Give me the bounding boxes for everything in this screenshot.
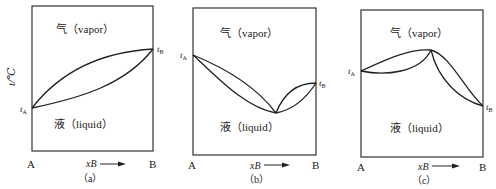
panel-b-x-axis-label: xB [249, 160, 261, 171]
panel-b-caption: （b） [244, 174, 269, 185]
panel-b-vapor-label: 气（vapor） [220, 26, 278, 39]
panel-b-dew-curve-right [276, 83, 316, 113]
panel-b-ta-label: tA [180, 50, 188, 61]
panel-c-left-end-label: A [357, 161, 365, 173]
panel-c: 气（vapor） 液（liquid） tA tB A B xB （c） [348, 10, 493, 186]
phase-diagrams: t/℃ 气（vapor） 液（liquid） tA tB A B xB （a） … [0, 0, 496, 189]
panel-a-x-axis-label: xB [85, 158, 97, 169]
panel-c-tb-label: tB [486, 102, 493, 113]
panel-b-right-end-label: B [312, 159, 319, 171]
panel-b-bubble-curve-left [193, 55, 276, 113]
panel-b: 气（vapor） 液（liquid） tA tB A B xB （b） [180, 8, 326, 185]
panel-c-bubble-curve-left [361, 50, 431, 73]
panel-a-bubble-curve [32, 49, 153, 108]
panel-c-ta-label: tA [348, 66, 356, 77]
panel-a-left-end-label: A [27, 158, 35, 170]
panel-a-right-end-label: B [149, 158, 156, 170]
panel-b-dew-curve-left [193, 55, 276, 113]
panel-a-vapor-label: 气（vapor） [56, 22, 114, 35]
panel-c-vapor-label: 气（vapor） [390, 26, 448, 39]
panel-b-tb-label: tB [319, 78, 326, 89]
panel-c-dew-curve-right [431, 50, 483, 106]
panel-b-arrow-icon [282, 163, 290, 168]
panel-b-left-end-label: A [188, 159, 196, 171]
panel-a: 气（vapor） 液（liquid） tA tB A B xB （a） [20, 6, 164, 184]
y-axis-label: t/℃ [5, 67, 17, 86]
panel-c-x-axis-label: xB [417, 161, 429, 172]
panel-a-caption: （a） [78, 173, 102, 184]
panel-a-tb-label: tB [157, 44, 164, 55]
panel-b-liquid-label: 液（liquid） [220, 120, 279, 133]
panel-a-ta-label: tA [20, 104, 28, 115]
panel-a-dew-curve [32, 49, 153, 108]
panel-c-dew-curve-left [361, 50, 431, 71]
panel-a-arrow-icon [118, 162, 126, 167]
panel-c-arrow-icon [452, 164, 460, 169]
panel-c-caption: （c） [412, 175, 436, 186]
panel-c-liquid-label: 液（liquid） [390, 121, 449, 134]
panel-a-liquid-label: 液（liquid） [54, 117, 113, 130]
panel-c-right-end-label: B [479, 161, 486, 173]
